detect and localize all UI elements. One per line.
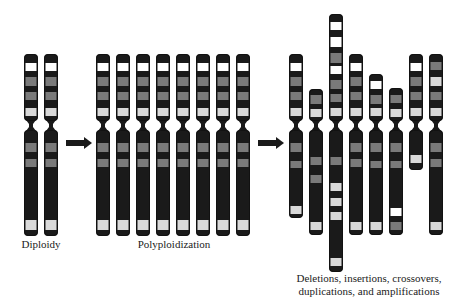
chromosome-polyploid-6 [196, 54, 210, 236]
arrow-2-icon [258, 137, 284, 149]
chromosome-polyploid-4 [156, 54, 170, 236]
chromosome-polyploid-7 [216, 54, 230, 236]
chromosome-rearranged-6 [389, 88, 403, 235]
chromosome-rearranged-1 [289, 54, 303, 218]
label-diploidy: Diploidy [21, 238, 60, 251]
chromosome-polyploid-1 [96, 54, 110, 236]
chromosome-rearranged-4 [349, 54, 363, 235]
diagram-canvas [0, 0, 462, 306]
chromosome-rearranged-5 [369, 74, 383, 235]
chromosome-polyploid-5 [176, 54, 190, 236]
chromosome-rearranged-2 [309, 89, 323, 235]
chromosome-diploid-1 [24, 54, 38, 236]
label-polyploidization: Polyploidization [138, 238, 211, 251]
chromosome-rearranged-7 [409, 54, 423, 170]
chromosome-polyploid-8 [236, 54, 250, 236]
chromosome-evolution-diagram: Diploidy Polyploidization Deletions, ins… [0, 0, 462, 306]
chromosome-rearranged-3 [329, 14, 343, 272]
label-rearrangements-line2: duplications, and amplifications [299, 285, 440, 298]
arrow-1-icon [66, 137, 92, 149]
chromosome-diploid-2 [44, 54, 58, 236]
chromosome-polyploid-2 [116, 54, 130, 236]
chromosome-polyploid-3 [136, 54, 150, 236]
label-rearrangements-line1: Deletions, insertions, crossovers, [296, 272, 441, 285]
chromosome-rearranged-8 [429, 54, 443, 235]
